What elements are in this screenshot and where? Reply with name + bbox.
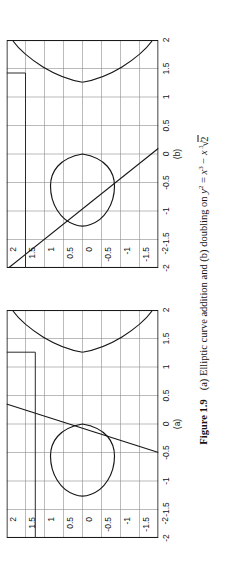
caption-math-y-exponent: 2 — [196, 186, 204, 190]
y-tick-a-0: 2 — [7, 517, 17, 522]
x-tick-b-8: 2 — [160, 38, 170, 43]
x-tick-a-8: 2 — [160, 308, 170, 313]
x-tick-b-6: 1 — [160, 95, 170, 100]
panel-label-b: (b) — [171, 40, 181, 268]
x-tick-a-4: 0 — [160, 422, 170, 427]
figure-panel-a: 2 1.5 1 0.5 0 -0.5 -1 -1.5 -2 -2 -1.5 -1… — [0, 310, 186, 562]
x-tick-a-0: -2 — [160, 534, 170, 542]
caption-math-y: y — [198, 189, 209, 194]
x-tick-b-4: 0 — [160, 152, 170, 157]
y-tick-a-3: 0.5 — [64, 517, 74, 529]
x-tick-b-7: 1.5 — [160, 63, 170, 75]
y-tick-b-5: -0.5 — [102, 247, 112, 262]
curve-branch-lower-a — [82, 311, 152, 352]
y-tick-b-2: 1 — [45, 247, 55, 252]
x-tick-a-6: 1 — [160, 365, 170, 370]
plot-area-a: 2 1.5 1 0.5 0 -0.5 -1 -1.5 -2 — [6, 310, 158, 538]
x-tick-b-0: -2 — [160, 264, 170, 272]
figure-caption: Figure 1.9(a) Elliptic curve addition an… — [196, 0, 218, 580]
x-tick-b-5: 0.5 — [160, 120, 170, 132]
panel-label-a: (a) — [171, 310, 181, 538]
rotated-figure-page: 2 1.5 1 0.5 0 -0.5 -1 -1.5 -2 -2 -1.5 -1… — [0, 0, 231, 580]
caption-math-x: x — [198, 170, 209, 175]
y-tick-b-7: -1.5 — [140, 247, 150, 262]
plot-area-b: 2 1.5 1 0.5 0 -0.5 -1 -1.5 -2 — [6, 40, 158, 268]
plot-frame-a — [6, 310, 158, 538]
curve-branch-upper-a — [13, 311, 83, 352]
y-tick-a-5: -0.5 — [102, 517, 112, 532]
caption-math-equals: = — [198, 174, 209, 185]
x-axis-ticks-a: -2 -1.5 -1 -0.5 0 0.5 1 1.5 2 — [160, 310, 172, 538]
y-tick-b-4: 0 — [83, 247, 93, 252]
x-tick-a-5: 0.5 — [160, 390, 170, 402]
figure-panel-b: 2 1.5 1 0.5 0 -0.5 -1 -1.5 -2 -2 -1.5 -1… — [0, 40, 186, 292]
x-tick-b-3: -0.5 — [160, 175, 170, 190]
radical-body: 2 — [197, 135, 209, 141]
y-tick-b-3: 0.5 — [64, 247, 74, 259]
caption-math-x2: x — [198, 150, 209, 155]
y-tick-a-7: -1.5 — [140, 517, 150, 532]
plot-frame-b — [6, 40, 158, 268]
x-tick-b-2: -1 — [160, 207, 170, 215]
y-axis-ticks-a: 2 1.5 1 0.5 0 -0.5 -1 -1.5 -2 — [12, 516, 164, 538]
y-tick-a-4: 0 — [83, 517, 93, 522]
x-axis-ticks-b: -2 -1.5 -1 -0.5 0 0.5 1 1.5 2 — [160, 40, 172, 268]
x-tick-a-7: 1.5 — [160, 333, 170, 345]
y-tick-a-2: 1 — [45, 517, 55, 522]
y-tick-b-6: -1 — [121, 247, 131, 255]
x-tick-b-1: -1.5 — [160, 232, 170, 247]
curve-branch-lower-b — [82, 41, 152, 82]
figure-panels-row: 2 1.5 1 0.5 0 -0.5 -1 -1.5 -2 -2 -1.5 -1… — [0, 0, 186, 580]
caption-math-x-exponent: 3 — [196, 166, 204, 170]
secant-line-a — [6, 404, 158, 453]
x-tick-a-3: -0.5 — [160, 445, 170, 460]
y-axis-ticks-b: 2 1.5 1 0.5 0 -0.5 -1 -1.5 -2 — [12, 246, 164, 268]
y-tick-b-1: 1.5 — [26, 247, 36, 259]
radical-index: 3 — [197, 145, 203, 148]
y-tick-b-0: 2 — [7, 247, 17, 252]
y-tick-a-6: -1 — [121, 517, 131, 525]
figure-number: Figure 1.9 — [198, 399, 209, 444]
caption-text: (a) Elliptic curve addition and (b) doub… — [198, 194, 209, 391]
y-tick-a-1: 1.5 — [26, 517, 36, 529]
caption-cube-root: 3√2 — [198, 135, 209, 150]
x-tick-a-1: -1.5 — [160, 502, 170, 517]
curve-oval-b — [50, 154, 114, 226]
x-tick-a-2: -1 — [160, 477, 170, 485]
caption-math-minus: − — [198, 155, 209, 166]
curve-branch-upper-b — [13, 41, 83, 82]
